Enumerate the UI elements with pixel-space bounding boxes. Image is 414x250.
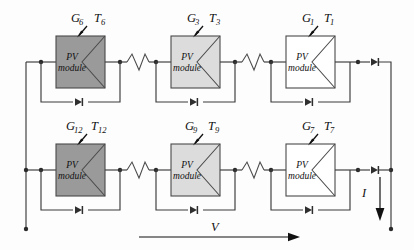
- module-label-line1-m3: PV: [180, 52, 194, 62]
- module-label-line2-m6: module: [58, 63, 86, 73]
- current-arrow-head: [376, 208, 385, 221]
- voltage-label: V: [211, 220, 220, 234]
- irradiance-sub-m6: 6: [79, 17, 84, 27]
- bypass-diode-triangle-m6: [75, 98, 82, 106]
- circuit-svg: PV module G 6 T 6 PV module G 3 T 3 PV m…: [0, 0, 414, 250]
- temperature-sub-m9: 9: [215, 125, 220, 135]
- module-label-line1-m7: PV: [295, 160, 309, 170]
- temperature-sub-m1: 1: [330, 17, 334, 27]
- break-symbol-bottom-1: [127, 162, 149, 178]
- current-label: I: [361, 186, 367, 200]
- irradiance-sub-m9: 9: [193, 125, 198, 135]
- irradiance-sub-m12: 12: [74, 125, 83, 135]
- break-symbol-top-1: [127, 54, 149, 70]
- terminal-dot-bottom-right: [389, 227, 393, 231]
- temperature-sub-m7: 7: [330, 125, 335, 135]
- module-label-line2-m9: module: [173, 171, 201, 181]
- bypass-diode-triangle-m7: [305, 206, 312, 214]
- break-symbol-bottom-2: [242, 162, 264, 178]
- module-label-line1-m12: PV: [65, 160, 79, 170]
- module-label-line2-m7: module: [288, 171, 316, 181]
- module-label-line1-m1: PV: [295, 52, 309, 62]
- module-label-line1-m9: PV: [180, 160, 194, 170]
- temperature-sub-m12: 12: [98, 125, 107, 135]
- temperature-sub-m6: 6: [101, 17, 106, 27]
- module-label-line2-m3: module: [173, 63, 201, 73]
- module-label-line2-m12: module: [58, 171, 86, 181]
- irradiance-sub-m3: 3: [194, 17, 199, 27]
- blocking-diode-triangle-bottom: [371, 166, 378, 174]
- junction-dot-left-bus: [24, 168, 28, 172]
- irradiance-sub-m7: 7: [310, 125, 315, 135]
- break-symbol-top-2: [242, 54, 264, 70]
- module-label-line1-m6: PV: [65, 52, 79, 62]
- bypass-diode-triangle-m3: [190, 98, 197, 106]
- module-label-line2-m1: module: [288, 63, 316, 73]
- terminal-dot-bottom-left: [24, 227, 28, 231]
- blocking-diode-triangle-top: [371, 58, 378, 66]
- bypass-diode-triangle-m9: [190, 206, 197, 214]
- bypass-diode-triangle-m12: [75, 206, 82, 214]
- bypass-diode-triangle-m1: [305, 98, 312, 106]
- irradiance-sub-m1: 1: [310, 17, 314, 27]
- voltage-arrow-head: [288, 233, 300, 241]
- temperature-sub-m3: 3: [215, 17, 220, 27]
- pv-array-figure: PV module G 6 T 6 PV module G 3 T 3 PV m…: [0, 0, 414, 250]
